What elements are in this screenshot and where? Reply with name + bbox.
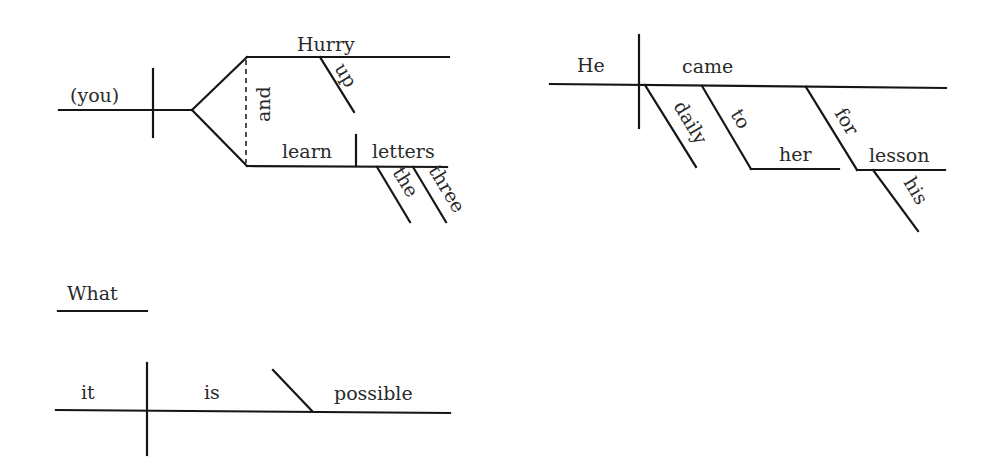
- word-adverb-daily: daily: [670, 97, 713, 148]
- word-object-lesson: lesson: [869, 144, 930, 166]
- word-subject-it: it: [81, 381, 95, 403]
- word-verb-is: is: [204, 381, 220, 403]
- word-verb-hurry: Hurry: [297, 33, 355, 55]
- sentence-diagrams-canvas: (you) Hurry learn letters and up the thr…: [0, 0, 988, 474]
- word-subject-you: (you): [70, 84, 119, 106]
- word-modifier-up: up: [331, 59, 362, 91]
- diagram-what-it-is-possible: What it is possible: [56, 282, 450, 455]
- verb-line-learn: [247, 166, 447, 167]
- word-object-letters: letters: [372, 140, 435, 162]
- fork-lower: [192, 110, 247, 166]
- word-object-her: her: [779, 143, 812, 165]
- word-subject-he: He: [577, 54, 605, 76]
- main-baseline: [56, 410, 450, 413]
- word-conjunction-and: and: [252, 86, 274, 122]
- word-modifier-three: three: [425, 161, 470, 216]
- word-verb-learn: learn: [282, 140, 332, 162]
- word-complement-possible: possible: [334, 382, 413, 404]
- word-what: What: [67, 282, 118, 304]
- main-baseline: [550, 84, 946, 88]
- diagram-he-came: He came daily to her for lesson his: [550, 35, 946, 231]
- word-preposition-to: to: [727, 105, 756, 133]
- complement-divider: [273, 370, 312, 411]
- diagram-hurry-up: (you) Hurry learn letters and up the thr…: [59, 33, 470, 222]
- fork-upper: [192, 57, 247, 110]
- word-verb-came: came: [682, 55, 733, 77]
- word-modifier-his: his: [900, 173, 933, 208]
